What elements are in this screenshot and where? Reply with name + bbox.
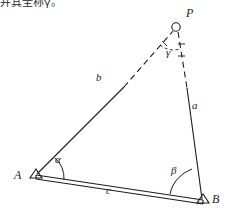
side-label-a: a (192, 99, 198, 111)
side-c-baseline (36, 175, 203, 204)
vertex-label-a: A (14, 168, 21, 183)
side-label-b: b (96, 71, 102, 83)
side-b-solid-segment (37, 87, 124, 174)
side-b-dashed-segment (124, 31, 173, 87)
side-label-c: c (106, 184, 111, 196)
side-a-line (178, 32, 202, 199)
vertex-label-p: P (186, 6, 193, 21)
figure-page: 并其全称γ。 (0, 0, 229, 218)
circle-station-icon (172, 23, 180, 31)
side-a-dashed-segment (178, 32, 187, 88)
angle-label-gamma: γ (166, 46, 170, 58)
angle-label-beta: β (171, 164, 176, 176)
angle-label-alpha: α (55, 153, 61, 165)
vertex-label-b: B (212, 192, 219, 207)
station-marker-p (172, 23, 180, 31)
side-c-line-lower (36, 179, 203, 204)
